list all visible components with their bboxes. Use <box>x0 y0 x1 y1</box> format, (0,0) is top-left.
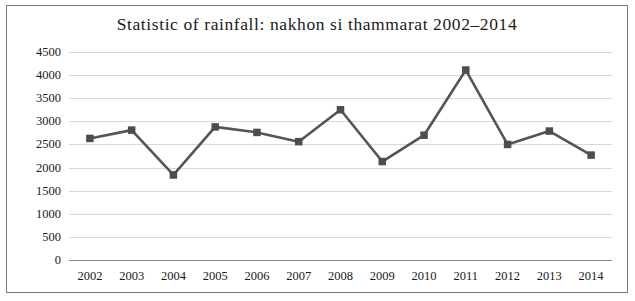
x-tick-label: 2006 <box>244 269 269 284</box>
y-axis-tick-labels: 050010001500200025003000350040004500 <box>15 52 61 260</box>
x-tick-label: 2010 <box>412 269 437 284</box>
series-line <box>90 70 591 175</box>
data-point-marker <box>211 123 219 131</box>
y-tick-label: 500 <box>42 229 61 244</box>
data-point-marker <box>546 127 554 135</box>
x-tick-label: 2008 <box>328 269 353 284</box>
y-tick-label: 4000 <box>36 68 61 83</box>
chart-page: Statistic of rainfall: nakhon si thammar… <box>0 0 635 301</box>
y-tick-label: 0 <box>55 253 61 268</box>
x-tick-label: 2007 <box>286 269 311 284</box>
y-tick-label: 2500 <box>36 137 61 152</box>
data-point-marker <box>170 171 178 179</box>
x-tick-label: 2005 <box>203 269 228 284</box>
data-point-marker <box>420 131 428 139</box>
x-tick-label: 2014 <box>579 269 604 284</box>
data-point-marker <box>587 151 595 159</box>
x-axis-line <box>69 260 612 261</box>
data-point-marker <box>128 126 135 133</box>
data-point-marker <box>337 106 345 114</box>
y-tick-label: 3000 <box>36 114 61 129</box>
x-tick-label: 2004 <box>161 269 186 284</box>
chart-frame: Statistic of rainfall: nakhon si thammar… <box>6 5 628 293</box>
plot-area <box>69 52 612 260</box>
data-point-marker <box>253 129 261 137</box>
y-tick-label: 4500 <box>36 45 61 60</box>
data-point-marker <box>379 158 387 166</box>
y-tick-label: 2000 <box>36 160 61 175</box>
y-tick-label: 1000 <box>36 206 61 221</box>
x-tick-label: 2002 <box>77 269 102 284</box>
x-tick-label: 2009 <box>370 269 395 284</box>
data-point-marker <box>295 138 303 146</box>
data-point-marker <box>504 141 512 149</box>
y-tick-label: 1500 <box>36 183 61 198</box>
rainfall-line-series <box>69 52 612 260</box>
y-tick-label: 3500 <box>36 91 61 106</box>
data-point-marker <box>86 135 94 143</box>
data-point-marker <box>462 66 470 74</box>
chart-title: Statistic of rainfall: nakhon si thammar… <box>7 14 627 35</box>
x-tick-label: 2013 <box>537 269 562 284</box>
x-tick-label: 2011 <box>454 269 479 284</box>
x-axis-tick-labels: 2002200320042005200620072008200920102011… <box>69 264 612 290</box>
x-tick-label: 2012 <box>495 269 520 284</box>
x-tick-label: 2003 <box>119 269 144 284</box>
